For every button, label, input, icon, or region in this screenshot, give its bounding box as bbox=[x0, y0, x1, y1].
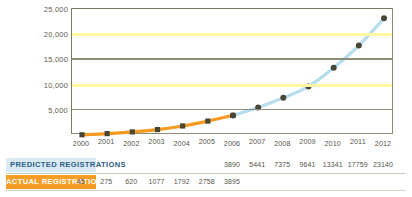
x-tick-label-2008: 2008 bbox=[274, 139, 290, 148]
table-row-predicted: Predicted Registrations 3890544173759641… bbox=[0, 158, 412, 173]
plot-area-wrapper: 25,00020,00015,00010,0005,000 2000200120… bbox=[0, 0, 412, 152]
data-point-2005 bbox=[205, 119, 210, 124]
y-tick-label-25000: 25,000 bbox=[4, 5, 68, 14]
x-tick-label-2007: 2007 bbox=[249, 137, 265, 146]
plot-area: 25,00020,00015,00010,0005,000 bbox=[71, 8, 393, 134]
x-tick-label-2012: 2012 bbox=[375, 139, 391, 148]
row-divider-actual bbox=[6, 190, 406, 191]
cell-predicted-2011: 17759 bbox=[348, 158, 368, 172]
data-point-2002 bbox=[130, 129, 135, 134]
y-tick-label-20000: 20,000 bbox=[4, 30, 68, 39]
x-tick-label-2001: 2001 bbox=[98, 137, 114, 146]
y-tick-label-10000: 10,000 bbox=[4, 80, 68, 89]
data-point-2010 bbox=[331, 65, 337, 71]
x-tick-label-2010: 2010 bbox=[324, 139, 340, 148]
cell-actual-2006: 3895 bbox=[224, 175, 240, 189]
data-legend-table: Predicted Registrations 3890544173759641… bbox=[0, 152, 412, 197]
data-point-2012 bbox=[381, 15, 387, 21]
cell-predicted-2010: 13341 bbox=[323, 158, 343, 172]
cell-predicted-2012: 23140 bbox=[373, 158, 393, 172]
data-point-2006 bbox=[230, 112, 236, 118]
cell-predicted-2008: 7375 bbox=[274, 158, 290, 172]
data-point-2003 bbox=[155, 127, 160, 132]
x-tick-label-2004: 2004 bbox=[173, 139, 189, 148]
gridline-15000 bbox=[72, 58, 392, 59]
row-divider-predicted bbox=[6, 173, 406, 174]
y-tick-label-5000: 5,000 bbox=[4, 105, 68, 114]
table-row-actual: Actual Registrations 4527562010771792275… bbox=[0, 175, 412, 190]
gridline-20000 bbox=[72, 33, 392, 36]
data-point-2011 bbox=[356, 42, 362, 48]
cell-actual-2000: 45 bbox=[77, 175, 85, 189]
x-tick-label-2003: 2003 bbox=[148, 137, 164, 146]
x-tick-label-2000: 2000 bbox=[73, 139, 89, 148]
legend-label-predicted: Predicted Registrations bbox=[6, 158, 96, 172]
x-axis-labels: 2000200120022003200420052006200720082009… bbox=[71, 136, 393, 150]
cell-predicted-2009: 9641 bbox=[300, 158, 316, 172]
x-tick-label-2009: 2009 bbox=[299, 137, 315, 146]
series-layer bbox=[72, 9, 394, 135]
data-point-2008 bbox=[280, 95, 286, 101]
cell-predicted-2006: 3890 bbox=[224, 158, 240, 172]
cell-actual-2004: 1792 bbox=[174, 175, 190, 189]
y-tick-label-15000: 15,000 bbox=[4, 55, 68, 64]
gridline-5000 bbox=[72, 109, 392, 110]
x-tick-label-2011: 2011 bbox=[350, 137, 366, 146]
x-tick-label-2002: 2002 bbox=[123, 139, 139, 148]
data-point-2004 bbox=[180, 123, 185, 128]
cell-actual-2005: 2758 bbox=[199, 175, 215, 189]
cell-actual-2001: 275 bbox=[100, 175, 112, 189]
x-tick-label-2005: 2005 bbox=[199, 137, 215, 146]
gridline-10000 bbox=[72, 84, 392, 87]
cell-predicted-2007: 5441 bbox=[249, 158, 265, 172]
registrations-growth-chart: 25,00020,00015,00010,0005,000 2000200120… bbox=[0, 0, 412, 197]
cell-actual-2002: 620 bbox=[125, 175, 137, 189]
cell-actual-2003: 1077 bbox=[149, 175, 165, 189]
x-tick-label-2006: 2006 bbox=[224, 139, 240, 148]
